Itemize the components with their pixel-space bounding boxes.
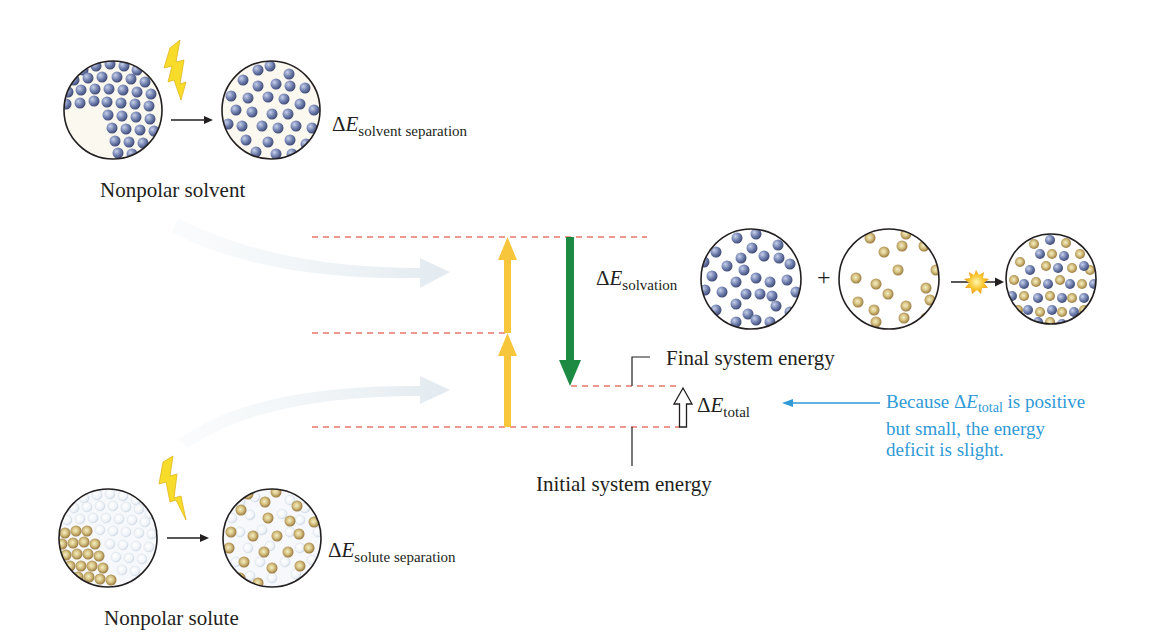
initial-energy-label: Initial system energy xyxy=(536,472,712,497)
plus-sign: + xyxy=(817,264,831,291)
solute-caption: Nonpolar solute xyxy=(104,606,239,631)
process-arrow xyxy=(171,116,213,124)
solvation-arrow xyxy=(559,237,581,386)
lightning-bolt-icon xyxy=(164,40,186,100)
solute-separation-arrow xyxy=(498,333,517,427)
solution-circle xyxy=(1006,234,1099,329)
solute-packed-circle xyxy=(57,489,158,587)
leader-lines xyxy=(632,357,650,466)
final-energy-label: Final system energy xyxy=(666,346,835,371)
solvent-separated-circle xyxy=(222,61,320,160)
solvent-packed-circle xyxy=(61,59,163,160)
solvent-separation-arrow xyxy=(498,237,517,333)
flow-arrow-solute xyxy=(178,376,450,448)
note-pointer-arrow xyxy=(782,399,880,407)
total-energy-arrow xyxy=(674,388,692,427)
solvent-caption: Nonpolar solvent xyxy=(100,178,245,203)
lightning-bolt-icon xyxy=(159,456,186,520)
separated-solvent-circle xyxy=(699,229,802,330)
solute-separated-circle xyxy=(223,487,323,589)
delta-e-solvation: ΔEsolvation xyxy=(596,266,677,294)
separated-solute-circle xyxy=(839,229,942,330)
delta-e-solvent-separation: ΔEsolvent separation xyxy=(332,112,467,140)
flow-arrow-solvent xyxy=(172,218,450,288)
process-arrow xyxy=(167,534,209,542)
delta-e-total: ΔEtotal xyxy=(697,393,750,421)
explanation-note: Because ΔEtotal is positive but small, t… xyxy=(886,391,1086,460)
starburst-icon xyxy=(964,270,989,294)
delta-e-solute-separation: ΔEsolute separation xyxy=(328,538,456,566)
